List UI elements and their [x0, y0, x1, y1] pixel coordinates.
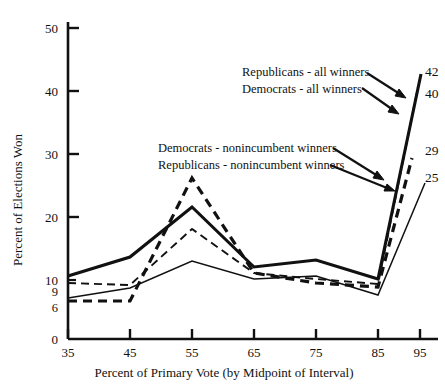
annotation-republicans-nonincumbent-winners: Republicans - nonincumbent winners: [158, 158, 345, 172]
leader-arrow-republicans-nonincumbent: [330, 165, 395, 191]
y-tick-label-30: 30: [45, 147, 58, 162]
y-tick-label-40: 40: [45, 84, 58, 99]
line-chart-svg: 50 40 30 20 10 9 6 0 35 45 55 65 75 85 9: [0, 0, 445, 384]
end-label-democrats-all-winners: 40: [425, 86, 439, 101]
x-tick-label-85: 85: [372, 345, 385, 360]
chart-figure: 50 40 30 20 10 9 6 0 35 45 55 65 75 85 9: [0, 0, 445, 384]
y-axis-ticks: [68, 28, 79, 280]
series-republicans-all-winners: [68, 74, 421, 279]
x-tick-label-55: 55: [186, 345, 199, 360]
x-tick-label-75: 75: [310, 345, 323, 360]
x-tick-label-65: 65: [248, 345, 261, 360]
y-tick-label-9: 9: [52, 285, 58, 299]
annotation-lower-group: Democrats - nonincumbent winners Republi…: [158, 141, 395, 191]
y-axis-tick-labels: 50 40 30 20 10 9 6 0: [45, 21, 58, 347]
end-label-republicans-all-winners: 42: [425, 64, 439, 79]
annotation-republicans-all-winners: Republicans - all winners: [242, 65, 370, 79]
x-tick-label-95: 95: [414, 345, 427, 360]
annotation-democrats-all-winners: Democrats - all winners: [242, 82, 362, 96]
y-tick-label-50: 50: [45, 21, 58, 36]
x-axis-title: Percent of Primary Vote (by Midpoint of …: [94, 365, 353, 380]
x-tick-label-35: 35: [62, 345, 75, 360]
leader-arrow-democrats-all: [362, 88, 399, 114]
leader-arrow-republicans-all: [367, 73, 406, 98]
y-tick-label-0: 0: [52, 332, 59, 347]
data-series-group: [68, 74, 425, 301]
x-axis-ticks: [68, 329, 420, 339]
annotation-democrats-nonincumbent-winners: Democrats - nonincumbent winners: [158, 141, 337, 155]
y-tick-label-6: 6: [52, 301, 58, 315]
y-tick-label-20: 20: [45, 210, 58, 225]
y-axis-title: Percent of Elections Won: [10, 134, 25, 266]
series-republicans-nonincumbent-winners: [68, 183, 425, 298]
end-label-republicans-nonincumbent-winners: 25: [425, 170, 439, 185]
x-axis-tick-labels: 35 45 55 65 75 85 95: [62, 345, 427, 360]
annotation-upper-group: Republicans - all winners Democrats - al…: [242, 65, 406, 114]
series-democrats-nonincumbent-winners: [68, 158, 412, 301]
series-end-labels: 42 40 29 25: [425, 64, 439, 185]
x-tick-label-45: 45: [124, 345, 137, 360]
end-label-democrats-nonincumbent-winners: 29: [425, 143, 439, 158]
